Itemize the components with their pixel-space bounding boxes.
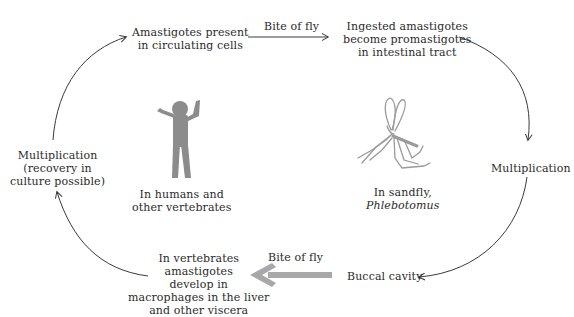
edge-label-bite-top: Bite of fly (264, 20, 319, 33)
human-figure (157, 100, 200, 178)
host-sandfly-caption: In sandfly, Phlebotomus (366, 186, 439, 212)
node-multiplication-host: Multiplication (recovery in culture poss… (10, 149, 105, 188)
node-ingested-amastigotes: Ingested amastigotes become promastigote… (343, 20, 472, 59)
edge-label-bite-bottom: Bite of fly (268, 251, 323, 264)
node-buccal-cavity: Buccal cavity (347, 270, 422, 283)
node-vertebrate-develop: In vertebrates amastigotes develop in ma… (128, 252, 269, 317)
host-human-caption: In humans and other vertebrates (132, 188, 231, 214)
node-multiplication-fly: Multiplication (491, 162, 571, 175)
node-amastigotes-circulating: Amastigotes present in circulating cells (132, 26, 249, 52)
sandfly-figure (358, 98, 430, 168)
arc-multiplication-to-amastigotes (53, 37, 126, 140)
